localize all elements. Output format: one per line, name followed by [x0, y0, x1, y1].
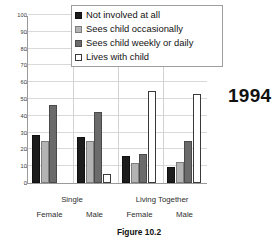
- x-axis-sublabel: Male: [72, 211, 117, 219]
- bar: [94, 112, 102, 183]
- figure-caption: Figure 10.2: [0, 228, 278, 236]
- bar: [49, 105, 57, 183]
- legend-label: Sees child weekly or daily: [86, 38, 193, 47]
- bar: [122, 156, 130, 183]
- legend-swatch-icon: [75, 54, 82, 61]
- x-axis-group-label: Living Together: [117, 196, 207, 204]
- legend-swatch-icon: [75, 40, 82, 47]
- legend-swatch-icon: [75, 26, 82, 33]
- legend-swatch-icon: [75, 12, 82, 19]
- figure-container: 1009080706050403020100 Not involved at a…: [0, 0, 278, 246]
- legend-label: Sees child occasionally: [86, 24, 183, 33]
- bar: [139, 154, 147, 183]
- x-axis-group-label: Single: [27, 196, 117, 204]
- legend-item: Not involved at all: [75, 8, 218, 22]
- legend-label: Lives with child: [86, 52, 149, 61]
- bar: [184, 141, 192, 183]
- year-annotation: 1994: [228, 86, 271, 105]
- legend-item: Sees child weekly or daily: [75, 36, 218, 50]
- bar: [32, 135, 40, 183]
- bar: [77, 137, 85, 183]
- bar: [193, 94, 201, 183]
- bar-group: [28, 16, 73, 183]
- y-axis-tick-mark: [24, 184, 27, 185]
- chart-legend: Not involved at allSees child occasional…: [71, 5, 223, 67]
- bar: [41, 141, 49, 183]
- y-axis: 1009080706050403020100: [0, 16, 27, 184]
- bar: [176, 162, 184, 183]
- x-axis-sublabel: Male: [162, 211, 207, 219]
- bar: [86, 141, 94, 183]
- bar: [148, 91, 156, 183]
- legend-label: Not involved at all: [86, 10, 160, 19]
- bar: [103, 174, 111, 183]
- x-axis-sublabel: Female: [27, 211, 72, 219]
- legend-item: Sees child occasionally: [75, 22, 218, 36]
- bar: [167, 167, 175, 183]
- legend-item: Lives with child: [75, 50, 218, 64]
- bar: [131, 163, 139, 183]
- x-axis-sublabel: Female: [117, 211, 162, 219]
